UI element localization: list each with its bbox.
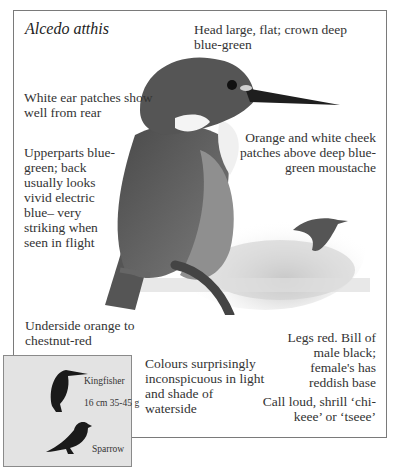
sparrow-silhouette-icon [44,418,99,456]
kingfisher-label: Kingfisher [84,376,125,386]
annotation-upperparts: Upperparts blue-green; back usually look… [24,145,124,250]
sparrow-label: Sparrow [92,444,124,454]
annotation-underside: Underside orange to chestnut-red [25,318,135,348]
annotation-ear-patches: White ear patches show well from rear [24,90,154,120]
annotation-colours: Colours surprisingly inconspicuous in li… [145,356,265,416]
kingfisher-silhouette-icon [44,366,94,416]
kingfisher-size: 16 cm 35-45 g [84,398,139,408]
annotation-cheek: Orange and white cheek patches above dee… [234,130,376,175]
size-comparison-box: Kingfisher 16 cm 35-45 g Sparrow [3,355,132,467]
scientific-name: Alcedo atthis [25,20,109,38]
annotation-legs-bill: Legs red. Bill of male black; female's h… [272,330,376,390]
annotation-head: Head large, flat; crown deep blue-green [194,22,364,52]
annotation-call: Call loud, shrill ‘chi-keee’ or ‘tseee’ [262,394,376,424]
